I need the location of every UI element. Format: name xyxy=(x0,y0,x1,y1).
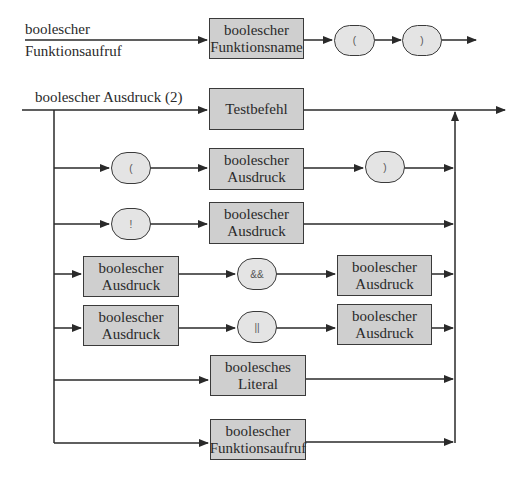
negation-expression-line1: boolescher xyxy=(224,206,289,223)
open-paren-terminal: ( xyxy=(334,25,375,56)
or-left-line1: boolescher xyxy=(99,309,164,326)
or-right-expression-box: boolescher Ausdruck xyxy=(337,304,432,345)
boolean-literal-box: boolesches Literal xyxy=(210,355,306,396)
and-left-expression-box: boolescher Ausdruck xyxy=(83,256,179,297)
paren-close-terminal: ) xyxy=(365,151,405,183)
test-command-box: Testbefehl xyxy=(209,88,304,130)
or-operator-terminal: || xyxy=(237,311,277,343)
and-right-line1: boolescher xyxy=(352,259,417,276)
test-command-label: Testbefehl xyxy=(225,101,287,118)
or-right-line1: boolescher xyxy=(352,308,417,325)
negation-expression-line2: Ausdruck xyxy=(227,223,285,240)
paren-expression-line1: boolescher xyxy=(224,152,289,169)
paren-open-terminal: ( xyxy=(111,152,151,184)
function-call-label-line1: boolescher xyxy=(25,21,90,38)
function-name-line2: Funktionsname xyxy=(210,39,303,56)
boolean-literal-line1: boolesches xyxy=(225,359,291,376)
expression-label: boolescher Ausdruck (2) xyxy=(35,89,182,106)
boolean-literal-line2: Literal xyxy=(238,376,278,393)
and-left-line1: boolescher xyxy=(99,260,164,277)
negation-expression-box: boolescher Ausdruck xyxy=(209,202,304,244)
close-paren-terminal: ) xyxy=(402,25,442,56)
boolean-function-call-box: boolescher Funktionsaufruf xyxy=(210,419,306,460)
or-left-expression-box: boolescher Ausdruck xyxy=(83,305,179,346)
and-right-line2: Ausdruck xyxy=(355,276,413,293)
function-name-box: boolescher Funktionsname xyxy=(209,18,304,59)
or-left-line2: Ausdruck xyxy=(102,326,160,343)
boolean-function-call-line1: boolescher xyxy=(226,423,291,440)
paren-expression-box: boolescher Ausdruck xyxy=(209,148,304,190)
function-call-label-line2: Funktionsaufruf xyxy=(25,43,122,60)
or-right-line2: Ausdruck xyxy=(355,325,413,342)
function-name-line1: boolescher xyxy=(224,22,289,39)
not-operator-terminal: ! xyxy=(111,208,151,240)
and-right-expression-box: boolescher Ausdruck xyxy=(337,255,432,296)
and-operator-terminal: && xyxy=(237,258,277,290)
paren-expression-line2: Ausdruck xyxy=(227,169,285,186)
boolean-function-call-line2: Funktionsaufruf xyxy=(210,440,307,457)
and-left-line2: Ausdruck xyxy=(102,277,160,294)
